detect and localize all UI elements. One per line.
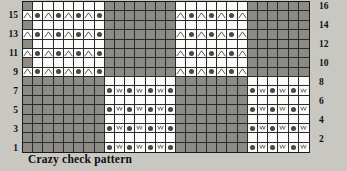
chart-cell[interactable] [299,58,309,67]
chart-cell[interactable] [197,124,207,133]
chart-cell[interactable] [135,68,145,77]
chart-cell[interactable] [248,11,258,20]
chart-cell[interactable] [74,2,84,11]
chart-cell[interactable] [186,21,196,30]
chart-cell[interactable] [299,143,309,152]
chart-cell[interactable] [278,58,288,67]
chart-cell[interactable] [135,124,145,133]
chart-cell[interactable] [146,49,156,58]
chart-cell[interactable] [84,68,94,77]
chart-cell[interactable] [217,2,227,11]
chart-cell[interactable] [176,77,186,86]
chart-cell[interactable] [64,68,74,77]
chart-cell[interactable] [105,49,115,58]
chart-cell[interactable] [64,77,74,86]
chart-cell[interactable] [176,30,186,39]
chart-cell[interactable] [238,86,248,95]
chart-cell[interactable] [248,96,258,105]
chart-cell[interactable] [74,68,84,77]
chart-cell[interactable] [289,2,299,11]
chart-cell[interactable] [197,105,207,114]
chart-cell[interactable] [289,40,299,49]
chart-cell[interactable] [289,77,299,86]
chart-cell[interactable] [135,58,145,67]
chart-cell[interactable] [207,11,217,20]
chart-cell[interactable] [54,105,64,114]
chart-cell[interactable] [176,115,186,124]
chart-cell[interactable] [227,96,237,105]
chart-cell[interactable] [64,133,74,142]
chart-cell[interactable] [238,133,248,142]
chart-cell[interactable] [146,40,156,49]
chart-cell[interactable] [135,133,145,142]
chart-cell[interactable] [166,105,176,114]
chart-cell[interactable] [74,96,84,105]
chart-cell[interactable] [74,133,84,142]
chart-cell[interactable] [84,96,94,105]
chart-cell[interactable] [54,143,64,152]
chart-cell[interactable] [54,77,64,86]
chart-cell[interactable] [258,49,268,58]
chart-cell[interactable] [43,115,53,124]
chart-cell[interactable] [207,40,217,49]
chart-cell[interactable] [186,11,196,20]
chart-cell[interactable] [227,124,237,133]
chart-cell[interactable] [227,30,237,39]
chart-cell[interactable] [54,21,64,30]
chart-cell[interactable] [23,96,33,105]
chart-cell[interactable] [289,105,299,114]
chart-cell[interactable] [299,21,309,30]
chart-cell[interactable] [54,30,64,39]
chart-cell[interactable] [278,40,288,49]
chart-cell[interactable] [299,105,309,114]
chart-cell[interactable] [115,49,125,58]
chart-cell[interactable] [197,77,207,86]
chart-cell[interactable] [23,77,33,86]
chart-cell[interactable] [238,115,248,124]
chart-cell[interactable] [156,40,166,49]
chart-cell[interactable] [278,21,288,30]
chart-cell[interactable] [186,124,196,133]
chart-cell[interactable] [227,40,237,49]
chart-cell[interactable] [268,133,278,142]
chart-cell[interactable] [95,11,105,20]
chart-cell[interactable] [268,143,278,152]
chart-cell[interactable] [105,58,115,67]
chart-cell[interactable] [217,40,227,49]
chart-cell[interactable] [156,30,166,39]
chart-cell[interactable] [74,115,84,124]
chart-cell[interactable] [54,115,64,124]
chart-cell[interactable] [33,77,43,86]
chart-cell[interactable] [238,58,248,67]
chart-cell[interactable] [258,115,268,124]
chart-cell[interactable] [238,49,248,58]
chart-cell[interactable] [278,115,288,124]
chart-cell[interactable] [258,2,268,11]
chart-cell[interactable] [95,105,105,114]
chart-cell[interactable] [248,40,258,49]
chart-cell[interactable] [54,49,64,58]
chart-cell[interactable] [299,133,309,142]
chart-cell[interactable] [33,124,43,133]
chart-cell[interactable] [33,96,43,105]
chart-cell[interactable] [54,133,64,142]
chart-cell[interactable] [146,96,156,105]
chart-cell[interactable] [217,77,227,86]
chart-cell[interactable] [248,86,258,95]
chart-cell[interactable] [217,105,227,114]
chart-cell[interactable] [207,30,217,39]
chart-cell[interactable] [186,58,196,67]
chart-cell[interactable] [23,11,33,20]
chart-cell[interactable] [84,2,94,11]
chart-cell[interactable] [197,21,207,30]
chart-cell[interactable] [74,105,84,114]
chart-cell[interactable] [207,58,217,67]
chart-cell[interactable] [33,105,43,114]
chart-cell[interactable] [268,115,278,124]
chart-cell[interactable] [95,143,105,152]
chart-cell[interactable] [268,105,278,114]
chart-cell[interactable] [84,86,94,95]
chart-cell[interactable] [105,40,115,49]
chart-cell[interactable] [54,58,64,67]
chart-cell[interactable] [135,86,145,95]
